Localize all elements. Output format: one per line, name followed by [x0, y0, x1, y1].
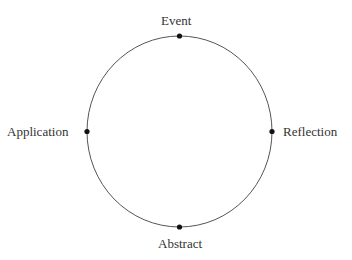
node-label-event: Event: [161, 14, 191, 27]
node-dot-reflection: [269, 129, 274, 134]
cycle-circle: [87, 36, 272, 227]
node-label-reflection: Reflection: [283, 125, 337, 138]
node-dot-application: [84, 129, 89, 134]
node-dot-abstract: [177, 224, 182, 229]
node-label-abstract: Abstract: [158, 237, 202, 250]
node-dot-event: [177, 33, 182, 38]
node-label-application: Application: [7, 125, 68, 138]
